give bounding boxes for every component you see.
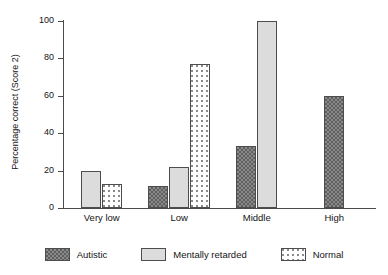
legend-swatch-icon [45,248,70,261]
legend-item-normal[interactable]: Normal [281,248,344,261]
y-tick-label: 40 [28,127,54,137]
y-axis-title-text: Percentage correct (Score 2) [10,54,20,170]
legend-label: Mentally retarded [173,249,246,260]
y-axis-title: Percentage correct (Score 2) [6,16,24,208]
bar-low-autistic [148,186,168,208]
legend-swatch-icon [281,248,306,261]
x-axis-label-very-low: Very low [84,212,120,223]
plot-area [63,21,373,208]
y-tick-label: 100 [28,15,54,25]
x-axis-label-low: Low [171,212,188,223]
x-axis-label-middle: Middle [243,212,271,223]
bar-very-low-mentally-retarded [81,171,101,208]
legend-item-autistic[interactable]: Autistic [45,248,108,261]
bar-chart-figure: Percentage correct (Score 2) 10080604020… [0,0,388,275]
y-tick-label: 80 [28,52,54,62]
bar-middle-autistic [236,146,256,208]
legend-swatch-icon [141,248,166,261]
y-tick-label: 0 [28,202,54,212]
chart-legend: AutisticMentally retardedNormal [0,243,388,265]
x-axis-label-high: High [324,212,344,223]
legend-label: Normal [313,249,344,260]
bar-low-normal [190,64,210,208]
x-axis-line [63,208,376,209]
legend-item-mentally-retarded[interactable]: Mentally retarded [141,248,246,261]
legend-label: Autistic [77,249,108,260]
y-tick-mark [58,208,63,209]
bar-high-autistic [324,96,344,208]
bar-very-low-normal [102,184,122,208]
bar-middle-mentally-retarded [257,21,277,208]
bar-low-mentally-retarded [169,167,189,208]
y-tick-label: 20 [28,165,54,175]
y-tick-label: 60 [28,90,54,100]
